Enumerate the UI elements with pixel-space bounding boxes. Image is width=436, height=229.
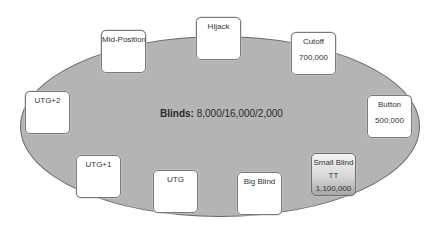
seat-name: UTG+1 xyxy=(77,160,120,169)
seat-stack: 500,000 xyxy=(368,116,411,125)
seat-name: Small Blind xyxy=(312,158,355,167)
seat-name: UTG+2 xyxy=(26,96,69,105)
seat-name: UTG xyxy=(154,175,197,184)
seat-name: Cutoff xyxy=(292,37,335,46)
seat-stack: 700,000 xyxy=(292,53,335,62)
seat-big-blind: Big Blind xyxy=(237,172,282,215)
seat-utg: UTG xyxy=(153,170,198,213)
seat-utg-plus-2: UTG+2 xyxy=(25,91,70,134)
seat-mid-position: Mid-Position xyxy=(101,30,146,73)
seat-stack: 1,100,000 xyxy=(312,184,355,193)
seat-name: Hijack xyxy=(197,22,240,31)
seat-utg-plus-1: UTG+1 xyxy=(76,155,121,198)
seat-button: Button 500,000 xyxy=(367,95,412,138)
seat-small-blind: Small Blind TT 1,100,000 xyxy=(311,153,356,196)
seat-cutoff: Cutoff 700,000 xyxy=(291,32,336,75)
seat-hijack: Hijack xyxy=(196,17,241,60)
blinds-value: 8,000/16,000/2,000 xyxy=(197,108,283,119)
seat-name: Button xyxy=(368,100,411,109)
seat-hand: TT xyxy=(312,171,355,180)
blinds-label: Blinds: xyxy=(160,108,194,119)
seat-name: Big Blind xyxy=(238,177,281,186)
blinds-info: Blinds: 8,000/16,000/2,000 xyxy=(160,108,283,119)
seat-name: Mid-Position xyxy=(102,35,145,44)
